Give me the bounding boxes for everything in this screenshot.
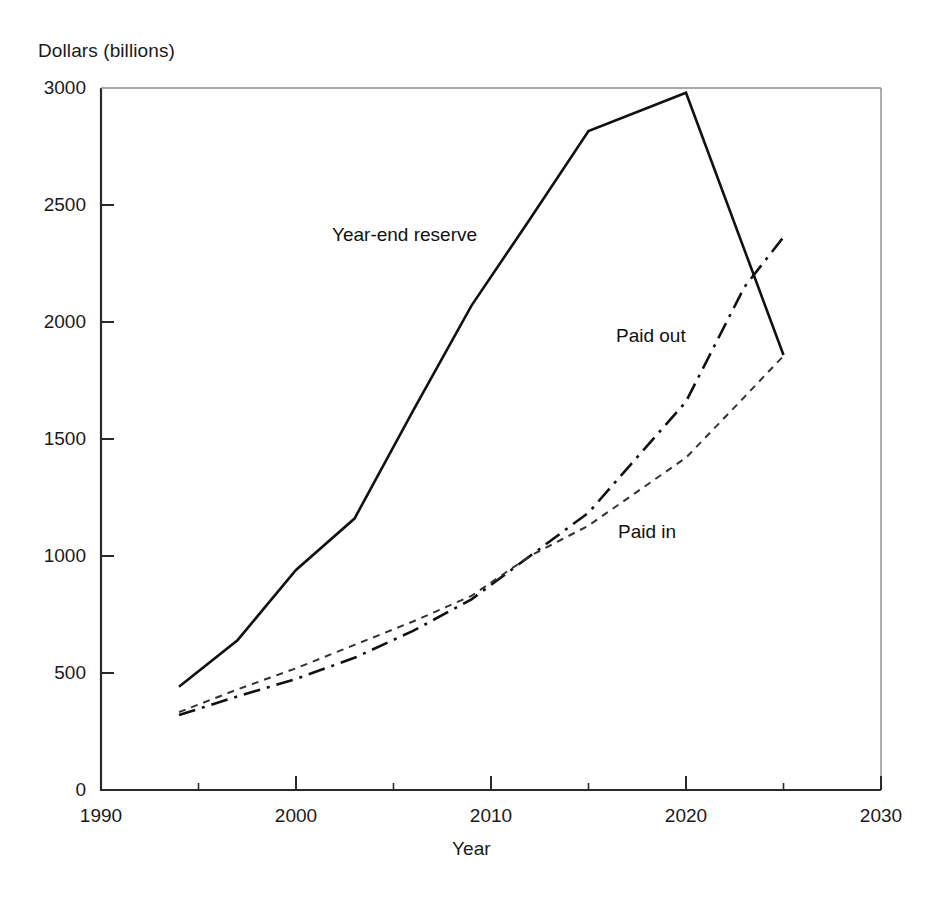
chart-container: Dollars (billions) Year 3000250020001500… <box>0 0 939 900</box>
series-lines <box>179 93 784 715</box>
axis-frame <box>101 88 881 790</box>
series-line-paid-out <box>179 237 784 715</box>
plot-area <box>0 0 939 900</box>
series-line-paid-in <box>179 356 784 712</box>
